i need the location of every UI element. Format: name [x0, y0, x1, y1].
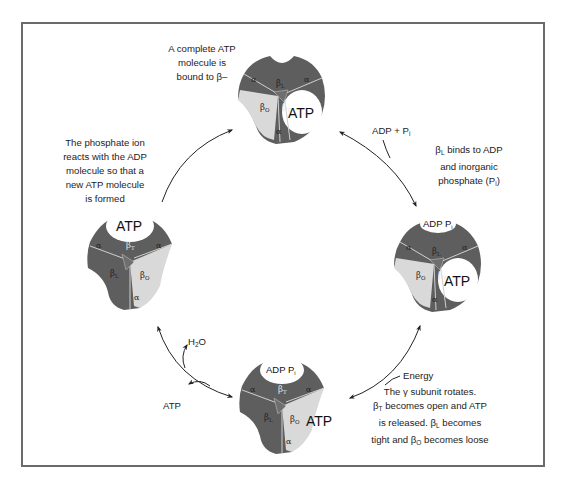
atp-site-label: ATP	[288, 105, 314, 121]
alpha-label: α	[304, 75, 310, 84]
alpha-label: α	[406, 243, 412, 252]
alpha-label: α	[134, 293, 140, 302]
atp-site-label: ATP	[116, 218, 142, 234]
arrow-energy-input	[385, 376, 400, 385]
alpha-label: α	[306, 385, 312, 394]
caption-right: βL binds to ADP and inorganic phosphate …	[404, 143, 534, 191]
caption-left: The phosphate ion reacts with the ADP mo…	[40, 136, 170, 206]
alpha-label: α	[250, 385, 256, 394]
alpha-label: α	[96, 241, 102, 250]
arrow-h2o-output	[183, 345, 187, 368]
label-atp-released: ATP	[163, 400, 181, 412]
state-bottom: α α α βT βL βO ATP ADP Pi	[239, 356, 332, 454]
caption-bottom-right: The γ subunit rotates. βT becomes open a…	[355, 385, 505, 450]
state-right: α α α βL βO βT ATP ADP Pi	[394, 215, 481, 312]
caption-top: A complete ATP molecule is bound to β–	[152, 42, 252, 84]
arrow-adp-pi-input	[383, 140, 390, 158]
alpha-label: α	[276, 127, 282, 136]
alpha-label: α	[432, 295, 438, 304]
label-energy: Energy	[403, 370, 433, 382]
adp-pi-site-label: ADP Pi	[266, 364, 296, 376]
arrow-left-to-top	[162, 130, 232, 202]
label-adp-pi: ADP + Pi	[372, 125, 410, 140]
state-left: α α α βT βL βO ATP	[87, 210, 172, 310]
atp-site-label: ATP	[444, 273, 470, 289]
alpha-label: α	[462, 243, 468, 252]
atp-site-label: ATP	[306, 413, 332, 429]
label-h2o: H2O	[188, 336, 206, 351]
alpha-label: α	[156, 241, 162, 250]
adp-pi-site-label: ADP Pi	[423, 218, 453, 230]
alpha-label: α	[286, 437, 292, 446]
